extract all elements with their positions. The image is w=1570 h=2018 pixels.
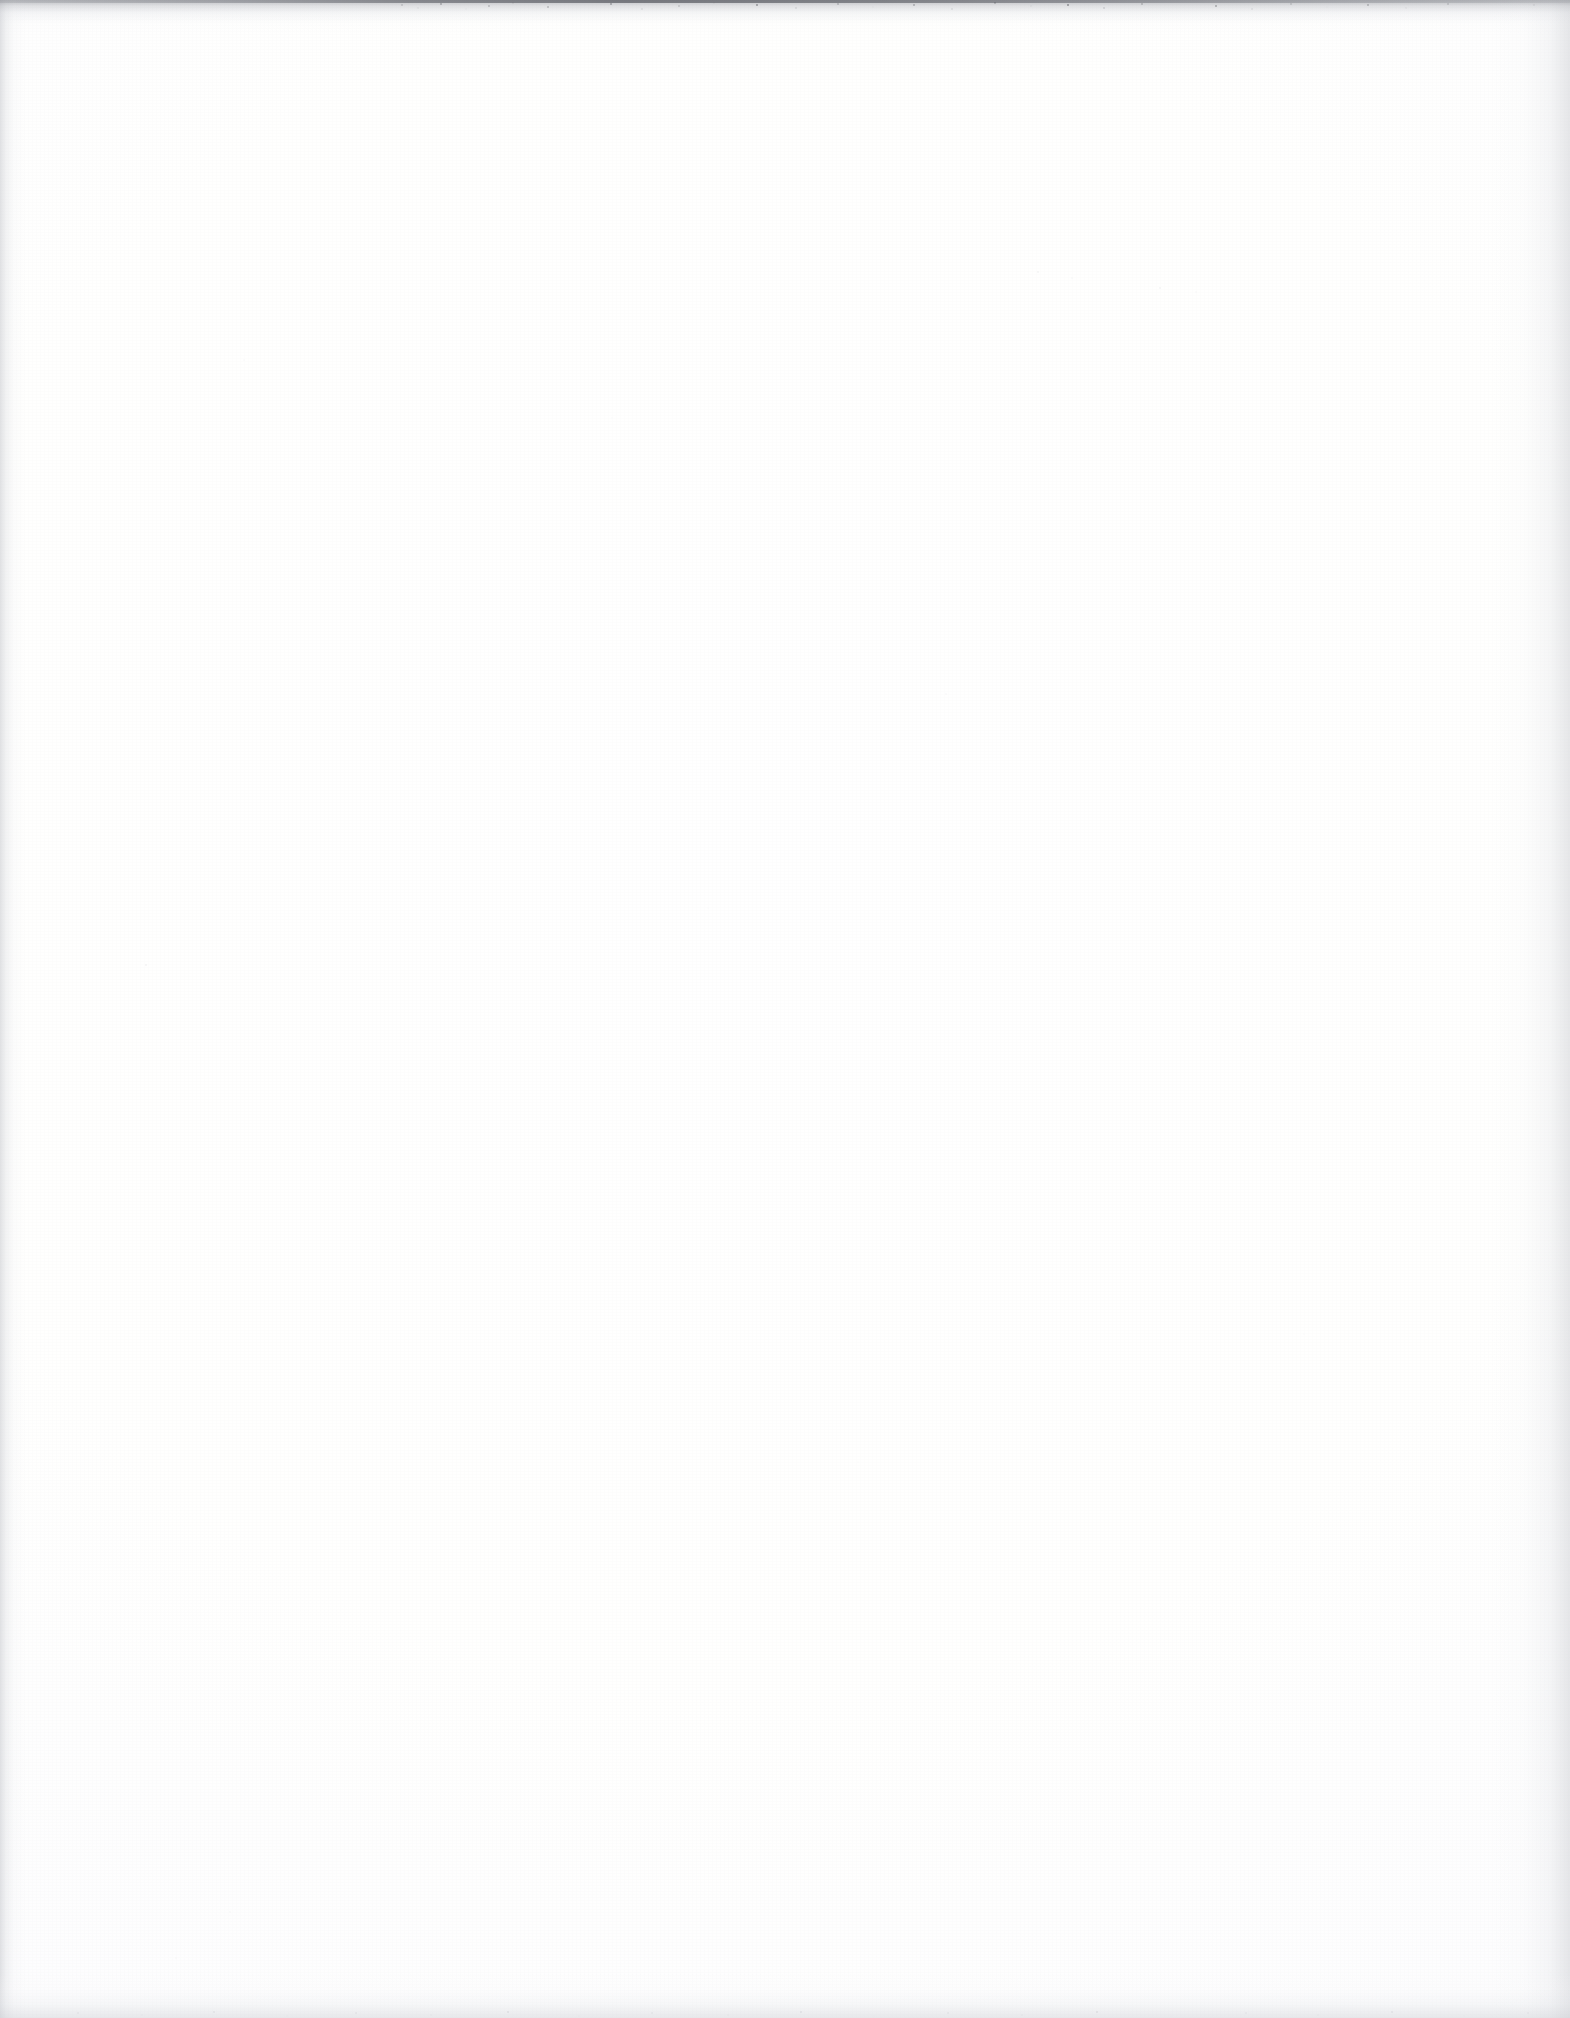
paper-field [0,0,1570,2018]
scanned-page [0,0,1570,2018]
